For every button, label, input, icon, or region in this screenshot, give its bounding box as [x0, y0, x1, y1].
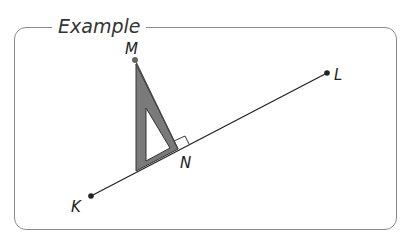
- line-kl: [91, 73, 327, 196]
- label-k: K: [71, 198, 82, 216]
- right-angle-icon: [174, 136, 189, 144]
- label-m: M: [125, 40, 138, 58]
- point-l: [324, 70, 330, 76]
- geometry-diagram: K L M N: [0, 0, 409, 241]
- set-square-icon: [136, 64, 178, 171]
- point-k: [88, 193, 94, 199]
- label-l: L: [334, 66, 342, 84]
- label-n: N: [180, 154, 191, 172]
